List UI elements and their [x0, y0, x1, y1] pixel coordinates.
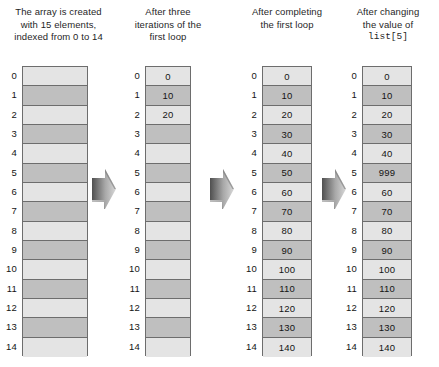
- array-cell: [23, 125, 87, 144]
- array-cell: [23, 164, 87, 183]
- array-cell: 0: [263, 67, 311, 86]
- array-cell: 30: [363, 125, 411, 144]
- caption-line: first loop: [124, 31, 212, 44]
- index-label: 12: [246, 298, 257, 317]
- index-label: 8: [352, 221, 357, 240]
- array-box-after-changing-value: 01020304099960708090100110120130140: [362, 66, 412, 356]
- index-label: 13: [6, 317, 17, 336]
- index-label: 1: [352, 85, 357, 104]
- index-label: 2: [135, 105, 140, 124]
- index-label: 12: [346, 298, 357, 317]
- array-cell: [23, 67, 87, 86]
- column-caption-initial: The array is createdwith 15 elements,ind…: [2, 6, 115, 44]
- index-label: 4: [12, 143, 17, 162]
- index-labels-after-three-iterations: 01234567891011121314: [121, 66, 140, 356]
- index-label: 11: [130, 279, 140, 298]
- caption-line: the first loop: [240, 19, 334, 32]
- array-cell: 60: [363, 183, 411, 202]
- array-cell: [23, 106, 87, 125]
- array-cell: 120: [263, 299, 311, 318]
- index-label: 3: [12, 124, 17, 143]
- column-caption-after-first-loop: After completingthe first loop: [240, 6, 334, 31]
- array-cell: 999: [363, 164, 411, 183]
- array-cell: 60: [263, 183, 311, 202]
- array-cell: 140: [263, 338, 311, 357]
- caption-code-reference: list[5]: [341, 31, 435, 44]
- index-labels-after-first-loop: 01234567891011121314: [238, 66, 257, 356]
- index-label: 0: [135, 66, 140, 85]
- array-cell: 100: [363, 260, 411, 279]
- array-cell: [146, 318, 190, 337]
- array-cell: [23, 202, 87, 221]
- array-cell: [23, 260, 87, 279]
- index-label: 7: [12, 201, 17, 220]
- index-label: 0: [352, 66, 357, 85]
- index-label: 7: [135, 201, 140, 220]
- column-caption-after-changing-value: After changingthe value oflist[5]: [341, 6, 435, 44]
- array-cell: 100: [263, 260, 311, 279]
- index-label: 14: [6, 337, 17, 356]
- index-label: 2: [352, 105, 357, 124]
- caption-line: After completing: [240, 6, 334, 19]
- array-cell: 140: [363, 338, 411, 357]
- array-cell: [23, 338, 87, 357]
- caption-line: the value of: [341, 19, 435, 32]
- index-label: 0: [12, 66, 17, 85]
- index-label: 2: [252, 105, 257, 124]
- array-cell: 10: [146, 86, 190, 105]
- array-cell: 110: [363, 280, 411, 299]
- index-label: 14: [246, 337, 257, 356]
- array-cell: 10: [263, 86, 311, 105]
- array-cell: 90: [363, 241, 411, 260]
- array-box-after-three-iterations: 01020: [145, 66, 191, 356]
- array-box-initial: [22, 66, 88, 356]
- index-label: 9: [252, 240, 257, 259]
- index-label: 1: [135, 85, 140, 104]
- index-label: 10: [6, 259, 17, 278]
- index-label: 0: [252, 66, 257, 85]
- array-cell: 50: [263, 164, 311, 183]
- index-label: 13: [346, 317, 357, 336]
- index-labels-after-changing-value: 01234567891011121314: [338, 66, 357, 356]
- index-label: 4: [135, 143, 140, 162]
- caption-line: with 15 elements,: [2, 19, 115, 32]
- array-cell: 130: [263, 318, 311, 337]
- index-label: 12: [6, 298, 17, 317]
- index-label: 8: [252, 221, 257, 240]
- right-arrow-icon: [322, 168, 346, 210]
- index-label: 4: [352, 143, 357, 162]
- caption-line: After changing: [341, 6, 435, 19]
- caption-line: indexed from 0 to 14: [2, 31, 115, 44]
- array-cell: [23, 222, 87, 241]
- index-label: 11: [347, 279, 357, 298]
- array-cell: 70: [263, 202, 311, 221]
- index-label: 12: [129, 298, 140, 317]
- array-cell: 70: [363, 202, 411, 221]
- array-cell: 0: [363, 67, 411, 86]
- index-label: 8: [135, 221, 140, 240]
- caption-line: iterations of the: [124, 19, 212, 32]
- index-label: 5: [352, 163, 357, 182]
- index-label: 8: [12, 221, 17, 240]
- index-label: 11: [247, 279, 257, 298]
- array-cell: [146, 222, 190, 241]
- right-arrow-icon: [210, 168, 234, 210]
- array-cell: 0: [146, 67, 190, 86]
- array-cell: [146, 125, 190, 144]
- index-label: 6: [12, 182, 17, 201]
- array-box-after-first-loop: 0102030405060708090100110120130140: [262, 66, 312, 356]
- array-cell: 90: [263, 241, 311, 260]
- index-label: 5: [135, 163, 140, 182]
- array-cell: 20: [146, 106, 190, 125]
- array-cell: [23, 144, 87, 163]
- index-label: 13: [129, 317, 140, 336]
- array-cell: [23, 241, 87, 260]
- index-label: 3: [252, 124, 257, 143]
- array-cell: [146, 260, 190, 279]
- array-cell: 10: [363, 86, 411, 105]
- array-progression-diagram: The array is createdwith 15 elements,ind…: [0, 0, 439, 367]
- array-cell: [146, 280, 190, 299]
- index-label: 10: [129, 259, 140, 278]
- caption-line: After three: [124, 6, 212, 19]
- index-labels-initial: 01234567891011121314: [0, 66, 17, 356]
